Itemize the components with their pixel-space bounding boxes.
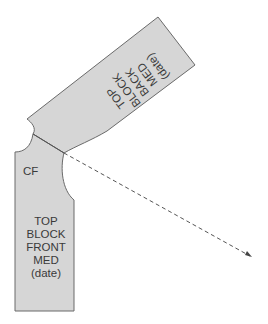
back-bodice-piece [27, 17, 195, 153]
front-label-line: TOP [34, 215, 58, 227]
front-label-line: FRONT [26, 241, 66, 253]
front-label-line: BLOCK [27, 228, 66, 240]
front-label-line: (date) [31, 267, 61, 279]
pattern-diagram: TOP BLOCK BACK MED (date) CF TOP BLOCK F… [0, 0, 268, 324]
front-label-line: MED [33, 254, 59, 266]
rotation-arrow-line [64, 153, 250, 256]
center-front-label: CF [23, 165, 38, 177]
arrow-head-icon [245, 251, 252, 257]
